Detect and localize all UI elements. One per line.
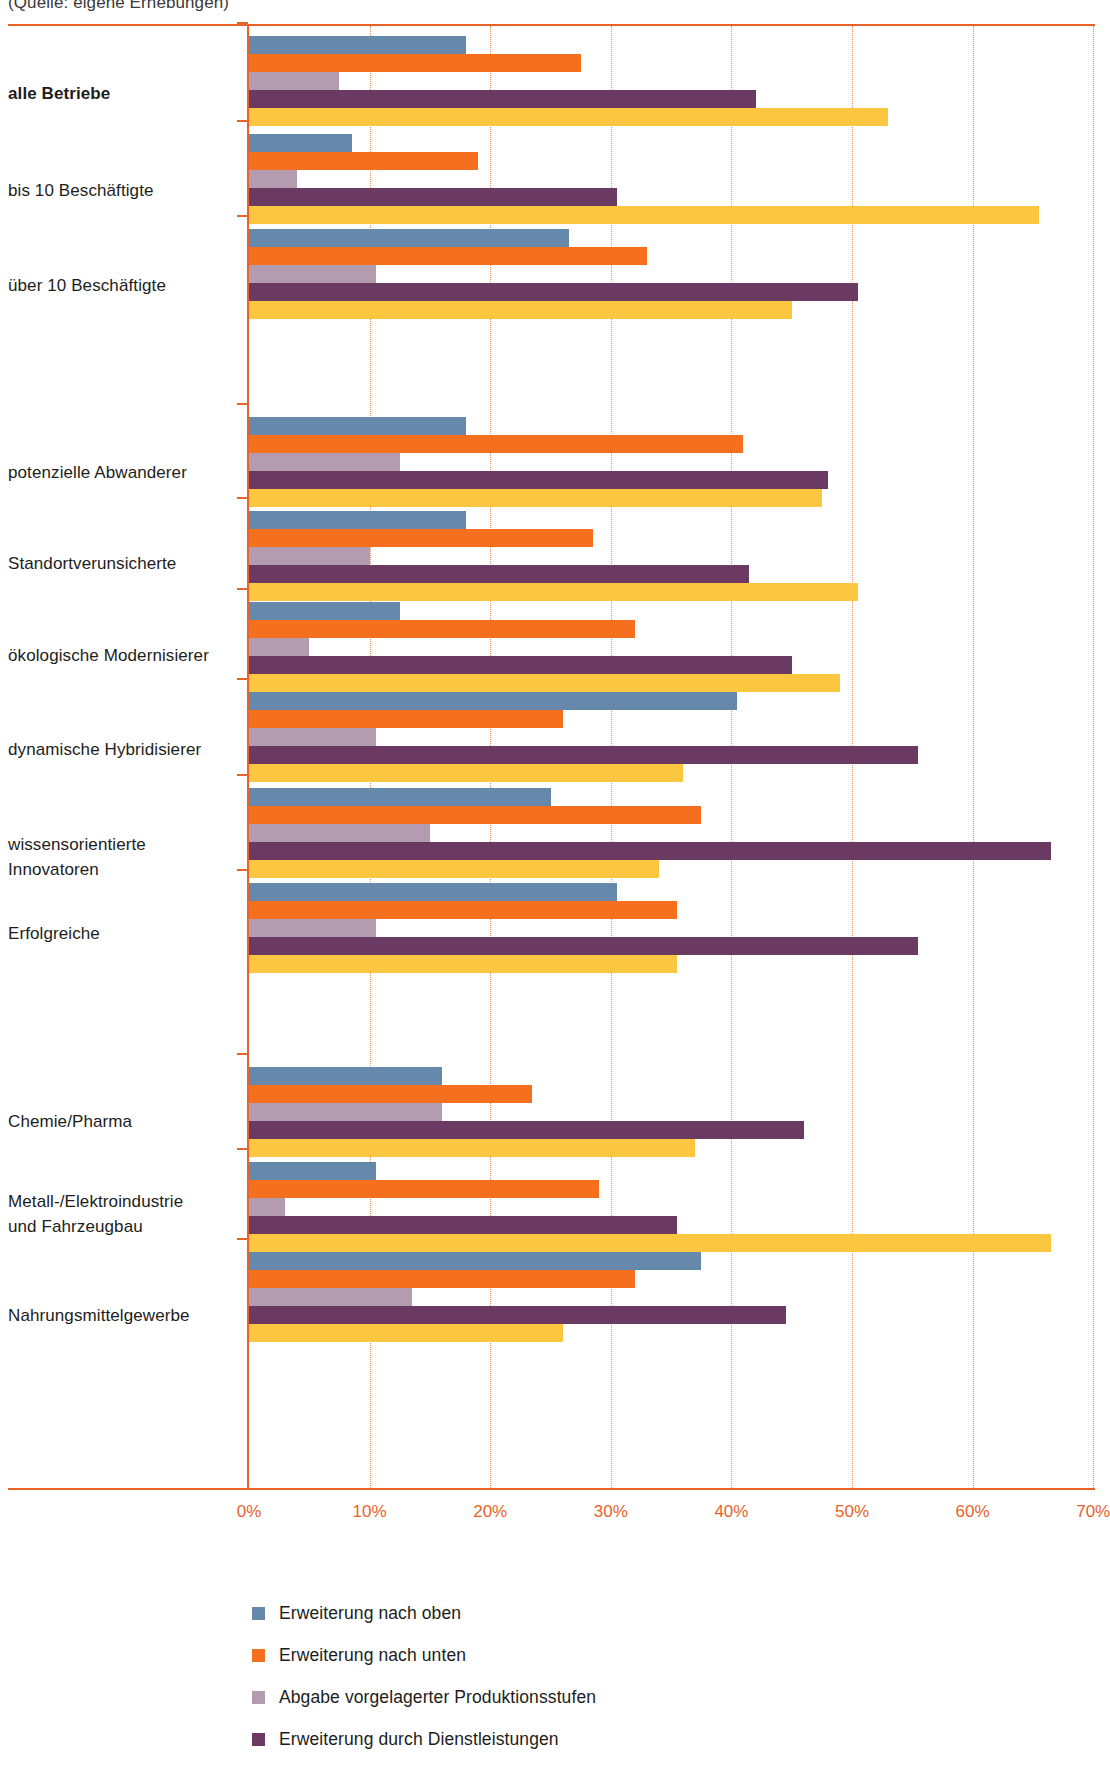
bar: [249, 1216, 677, 1234]
bar: [249, 72, 339, 90]
bar: [249, 1121, 804, 1139]
category-label: wissensorientierte Innovatoren: [8, 833, 240, 882]
bar: [249, 1085, 532, 1103]
bar: [249, 134, 352, 152]
bar: [249, 265, 376, 283]
bar: [249, 1270, 635, 1288]
legend-swatch-erweiterung-oben: [252, 1607, 265, 1620]
bar: [249, 206, 1039, 224]
category-label: Metall-/Elektroindustrieund Fahrzeugbau: [8, 1190, 240, 1239]
category-label-line: und Fahrzeugbau: [8, 1215, 240, 1240]
category-label: Erfolgreiche: [8, 922, 240, 947]
bar: [249, 860, 659, 878]
legend-label: Erweiterung nach unten: [279, 1645, 466, 1666]
category-axis-tick: [237, 215, 248, 217]
gridline: [1093, 26, 1094, 1488]
chart-legend: Erweiterung nach obenErweiterung nach un…: [252, 1592, 952, 1760]
category-label-line: über 10 Beschäftigte: [8, 274, 240, 299]
category-label-line: Standortverunsicherte: [8, 552, 240, 577]
bar: [249, 656, 792, 674]
bar: [249, 453, 400, 471]
legend-swatch-erweiterung-unten: [252, 1649, 265, 1662]
bar: [249, 90, 756, 108]
bar: [249, 728, 376, 746]
bar: [249, 36, 466, 54]
bar: [249, 170, 297, 188]
bar: [249, 806, 701, 824]
x-axis-tick-label: 20%: [473, 1502, 507, 1522]
legend-item[interactable]: Erweiterung nach unten: [252, 1634, 952, 1676]
bar: [249, 247, 647, 265]
category-label: über 10 Beschäftigte: [8, 274, 240, 299]
legend-label: Erweiterung nach oben: [279, 1603, 461, 1624]
bar: [249, 417, 466, 435]
category-label: Chemie/Pharma: [8, 1110, 240, 1135]
x-axis-tick-label: 40%: [714, 1502, 748, 1522]
bar: [249, 842, 1051, 860]
plot-bottom-rule: [8, 1488, 1095, 1490]
bar: [249, 692, 737, 710]
bar: [249, 1103, 442, 1121]
category-label: potenzielle Abwanderer: [8, 461, 240, 486]
bar-chart: alle Betriebebis 10 Beschäftigteüber 10 …: [0, 24, 1105, 1514]
bar: [249, 919, 376, 937]
category-label: ökologische Modernisierer: [8, 644, 240, 669]
category-axis-tick: [237, 22, 248, 24]
legend-item[interactable]: Abgabe vorgelagerter Produktionsstufen: [252, 1676, 952, 1718]
x-axis-tick-label: 50%: [835, 1502, 869, 1522]
x-axis-tick-label: 0%: [237, 1502, 262, 1522]
bar: [249, 1252, 701, 1270]
bar: [249, 883, 617, 901]
category-label: Nahrungsmittelgewerbe: [8, 1304, 240, 1329]
bar: [249, 565, 749, 583]
legend-item[interactable]: Erweiterung nach oben: [252, 1592, 952, 1634]
bar: [249, 54, 581, 72]
category-label: Standortverunsicherte: [8, 552, 240, 577]
bar: [249, 547, 370, 565]
category-label-line: Chemie/Pharma: [8, 1110, 240, 1135]
gridline: [973, 26, 974, 1488]
category-label-line: potenzielle Abwanderer: [8, 461, 240, 486]
bar: [249, 746, 918, 764]
category-axis-tick: [237, 120, 248, 122]
bar: [249, 229, 569, 247]
bar: [249, 1067, 442, 1085]
legend-swatch-abgabe-vorgelagerter: [252, 1691, 265, 1704]
bar: [249, 1162, 376, 1180]
category-axis-tick: [237, 588, 248, 590]
category-axis-tick: [237, 774, 248, 776]
bar: [249, 152, 478, 170]
bar: [249, 824, 430, 842]
bar: [249, 937, 918, 955]
bar: [249, 1198, 285, 1216]
x-axis-tick-label: 70%: [1076, 1502, 1110, 1522]
bar: [249, 511, 466, 529]
bar: [249, 710, 563, 728]
bar: [249, 1306, 786, 1324]
bar: [249, 301, 792, 319]
bar: [249, 788, 551, 806]
legend-item[interactable]: Erweiterung durch Dienstleistungen: [252, 1718, 952, 1760]
bar: [249, 602, 400, 620]
bar: [249, 901, 677, 919]
bar: [249, 188, 617, 206]
bar: [249, 955, 677, 973]
bar: [249, 1288, 412, 1306]
category-label: alle Betriebe: [8, 82, 240, 107]
source-note: (Quelle: eigene Erhebungen): [8, 0, 229, 13]
category-label-line: Metall-/Elektroindustrie: [8, 1190, 240, 1215]
category-label-line: alle Betriebe: [8, 82, 240, 107]
x-axis-tick-label: 60%: [956, 1502, 990, 1522]
bar: [249, 764, 683, 782]
category-label-line: dynamische Hybridisierer: [8, 738, 240, 763]
category-axis-tick: [237, 1148, 248, 1150]
category-label: bis 10 Beschäftigte: [8, 179, 240, 204]
legend-label: Erweiterung durch Dienstleistungen: [279, 1729, 559, 1750]
bar: [249, 1139, 695, 1157]
bar: [249, 489, 822, 507]
legend-swatch-erweiterung-dienstleistungen: [252, 1733, 265, 1746]
plot-top-rule: [8, 24, 1095, 26]
bar: [249, 529, 593, 547]
bar: [249, 471, 828, 489]
category-axis-tick: [237, 497, 248, 499]
